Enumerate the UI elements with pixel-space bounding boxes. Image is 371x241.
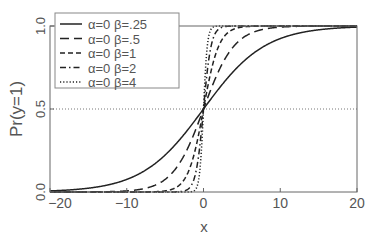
x-axis-label: x (200, 218, 208, 235)
legend-label-2: α=0 β=1 (88, 46, 136, 61)
x-tick-label: 0 (200, 195, 208, 211)
legend-label-3: α=0 β=2 (88, 61, 136, 76)
legend-label-1: α=0 β=.5 (88, 32, 140, 47)
y-tick-label: 0.5 (33, 100, 48, 118)
x-tick-label: −20 (48, 195, 72, 211)
legend-label-0: α=0 β=.25 (88, 17, 147, 32)
x-tick-label: 20 (349, 195, 365, 211)
logistic-curves-chart: −20−10010200.00.51.0 x Pr(y=1) α=0 β=.25… (0, 0, 371, 241)
y-axis-label: Pr(y=1) (7, 81, 26, 137)
y-tick-label: 1.0 (33, 17, 48, 35)
x-tick-label: 10 (272, 195, 288, 211)
legend-label-4: α=0 β=4 (88, 75, 136, 90)
y-tick-label: 0.0 (33, 183, 48, 201)
x-tick-label: −10 (115, 195, 139, 211)
legend: α=0 β=.25α=0 β=.5α=0 β=1α=0 β=2α=0 β=4 (55, 13, 179, 90)
